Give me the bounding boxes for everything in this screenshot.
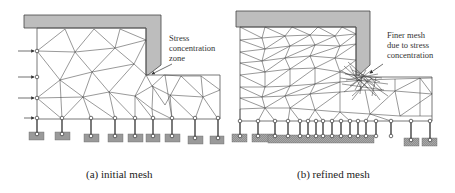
- diagram-canvas: [0, 0, 455, 193]
- punch-b: [236, 11, 370, 75]
- annotation-line: Finer mesh: [387, 30, 433, 40]
- annotation-stress-zone: Stress concentration zone: [169, 33, 215, 63]
- annotation-line: zone: [169, 53, 215, 63]
- annotation-leader-b: [370, 64, 383, 73]
- annotation-finer-mesh: Finer mesh due to stress concentration: [387, 30, 433, 60]
- caption-refined-mesh: (b) refined mesh: [297, 168, 370, 180]
- load-arrows-a: [18, 51, 34, 118]
- supports-b: [232, 119, 437, 146]
- annotation-line: Stress: [169, 33, 215, 43]
- caption-initial-mesh: (a) initial mesh: [86, 168, 153, 180]
- annotation-line: concentration: [387, 50, 433, 60]
- annotation-line: concentration: [169, 43, 215, 53]
- supports-a: [29, 116, 224, 144]
- annotation-line: due to stress: [387, 40, 433, 50]
